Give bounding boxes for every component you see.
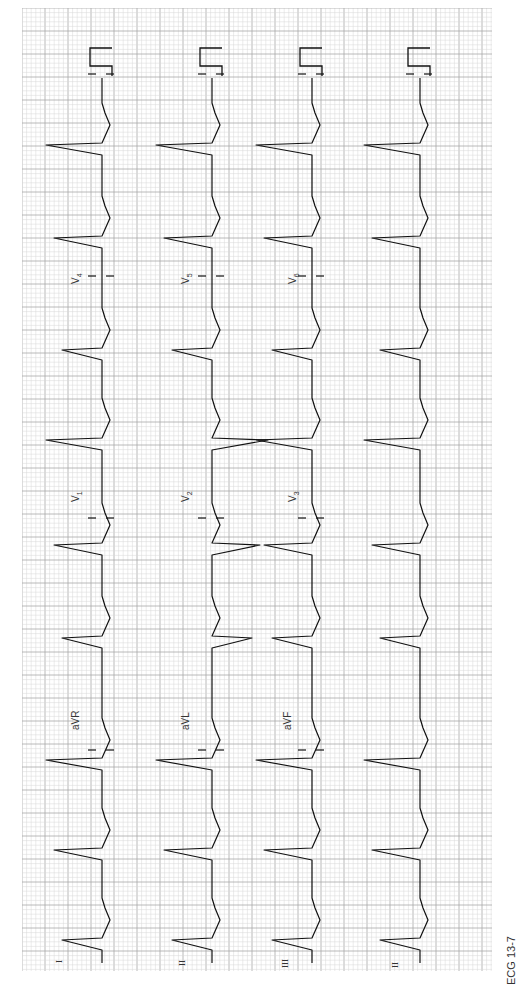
lead-label-III: III [280,959,290,968]
lead-label-I: I [54,960,64,963]
lead-label-II-rhythm: II [390,962,400,968]
lead-label-aVL: aVL [180,712,191,730]
ecg-traces [22,8,492,971]
ecg-sheet: I II III II aVR aVL aVF V1 V2 V3 V4 V5 V… [22,8,492,971]
lead-label-V1: V1 [70,491,83,502]
figure-caption: ECG 13-7 [505,936,517,985]
lead-label-V4: V4 [70,273,83,284]
lead-label-V5: V5 [180,273,193,284]
lead-label-V2: V2 [180,491,193,502]
lead-label-V3: V3 [287,491,300,502]
lead-label-aVF: aVF [282,712,293,730]
lead-label-aVR: aVR [70,711,81,730]
lead-label-V6: V6 [287,273,300,284]
lead-label-II: II [177,960,187,966]
